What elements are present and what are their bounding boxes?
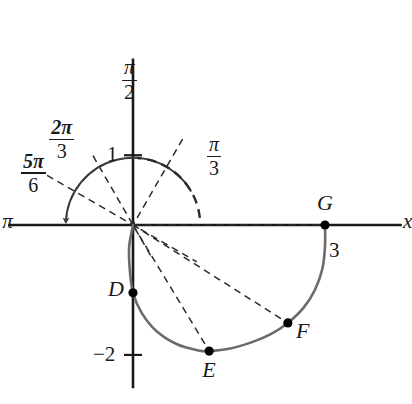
ray-label-2pi-over-3: 2π 3	[49, 117, 74, 161]
x-axis-left-label: π	[2, 211, 13, 232]
ray-label-numerator: 5π	[21, 151, 46, 171]
radius-chord-F	[133, 225, 288, 323]
plotted-point-G	[320, 220, 329, 229]
axis-lines	[8, 59, 402, 389]
figure-canvas: π 2 π 3 2π 3 5π 6 π x 1 −2 3 D E F G	[0, 0, 412, 404]
y-axis-top-denominator: 2	[122, 82, 137, 103]
y-axis-top-label: π 2	[122, 57, 137, 103]
y-axis-top-numerator: π	[122, 57, 137, 78]
point-label-G: G	[317, 192, 333, 214]
dashed-arc	[138, 158, 200, 218]
angle-sweep-arc	[66, 158, 191, 223]
y-tick-label-1: 1	[107, 144, 118, 165]
x-tick-label-3: 3	[329, 240, 340, 261]
polar-diagram-svg	[0, 0, 412, 404]
ray-label-numerator: 2π	[49, 117, 74, 137]
x-axis-label: x	[403, 211, 412, 232]
angle-ray-5pi-over-6	[47, 175, 197, 261]
point-label-E: E	[202, 359, 215, 381]
y-tick-label-minus-2: −2	[93, 344, 115, 365]
ray-label-denominator: 3	[207, 158, 221, 178]
angle-ray-pi-over-3	[133, 139, 183, 225]
ray-label-denominator: 6	[21, 175, 46, 195]
ray-label-numerator: π	[207, 134, 221, 154]
plotted-point-F	[283, 318, 292, 327]
point-label-F: F	[296, 320, 309, 342]
ray-label-5pi-over-6: 5π 6	[21, 151, 46, 195]
ray-label-pi-over-3: π 3	[207, 134, 221, 178]
point-label-D: D	[108, 278, 124, 300]
plotted-point-E	[205, 346, 214, 355]
ray-label-denominator: 3	[49, 141, 74, 161]
plotted-point-D	[128, 288, 137, 297]
